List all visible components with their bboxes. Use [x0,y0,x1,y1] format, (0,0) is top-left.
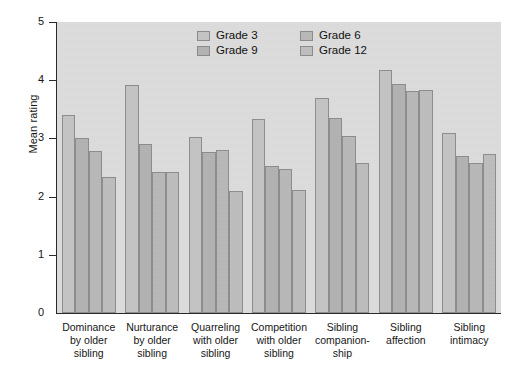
plot-area [57,22,501,313]
x-category-label-line: by older [120,334,183,347]
bar-group [57,22,120,313]
x-category-label: Siblingintimacy [438,321,501,347]
bar [152,172,166,313]
y-tick-mark [49,80,57,81]
bar [379,70,393,313]
bar-group [120,22,183,313]
bar [442,133,456,313]
x-category-label-line: Sibling [374,321,437,334]
bar [75,138,89,313]
bar [89,151,103,313]
x-category-label-line: affection [374,334,437,347]
bar-series-container [57,22,501,313]
x-category-label-line: Competition [247,321,310,334]
y-tick-label: 3 [26,132,44,143]
x-category-label-line: companion- [311,334,374,347]
x-category-label-line: Sibling [311,321,374,334]
bar [315,98,329,313]
bar [229,191,243,313]
legend-label: Grade 12 [319,45,367,57]
bar [189,137,203,313]
x-category-label-line: with older [247,334,310,347]
bar [62,115,76,313]
y-tick-label: 2 [26,191,44,202]
bar [469,163,483,313]
x-category-label-line: Sibling [438,321,501,334]
x-category-label-line: intimacy [438,334,501,347]
bar [419,90,433,313]
x-axis-category-labels: Dominanceby oldersiblingNurturanceby old… [57,321,501,376]
y-axis-tick-labels: 012345 [26,0,44,376]
bar [202,152,216,313]
y-tick-label: 4 [26,74,44,85]
y-tick-mark [49,197,57,198]
bar [279,169,293,313]
bar [265,166,279,313]
bar [456,156,470,313]
bar [406,91,420,313]
x-category-label: Competitionwith oldersibling [247,321,310,360]
legend-label: Grade 3 [216,30,258,42]
x-category-label: Nurturanceby oldersibling [120,321,183,360]
x-category-label-line: by older [57,334,120,347]
bar-group [184,22,247,313]
bar [216,150,230,313]
legend-swatch-icon [197,46,210,56]
bar-chart-figure: Mean rating 012345 Grade 3Grade 6Grade 9… [0,0,517,376]
bar [342,136,356,314]
x-category-label: Siblingaffection [374,321,437,347]
x-category-label-line: Dominance [57,321,120,334]
legend-swatch-icon [197,31,210,41]
bar [139,144,153,313]
y-tick-mark [49,255,57,256]
x-category-label-line: sibling [247,347,310,360]
bar [102,177,116,313]
bar [392,84,406,313]
bar [166,172,180,313]
legend-item: Grade 9 [197,43,300,58]
legend-item: Grade 12 [300,43,403,58]
bar-group [247,22,310,313]
bar [356,163,370,313]
x-category-label-line: with older [184,334,247,347]
x-category-label-line: ship [311,347,374,360]
y-tick-mark [49,22,57,23]
legend: Grade 3Grade 6Grade 9Grade 12 [197,28,402,58]
legend-label: Grade 9 [216,45,258,57]
x-category-label-line: sibling [184,347,247,360]
bar [483,154,497,313]
bar [329,118,343,313]
bar-group [438,22,501,313]
y-tick-label: 1 [26,249,44,260]
legend-label: Grade 6 [319,30,361,42]
bar [292,190,306,313]
x-category-label: Siblingcompanion-ship [311,321,374,360]
bar-group [374,22,437,313]
bar [252,119,266,313]
x-axis-line [56,313,501,314]
y-tick-label: 0 [26,307,44,318]
bar-group [311,22,374,313]
y-tick-label: 5 [26,16,44,27]
legend-item: Grade 6 [300,28,403,43]
x-category-label: Quarrelingwith oldersibling [184,321,247,360]
legend-swatch-icon [300,31,313,41]
x-category-label-line: sibling [57,347,120,360]
legend-swatch-icon [300,46,313,56]
y-tick-mark [49,138,57,139]
x-category-label-line: sibling [120,347,183,360]
legend-item: Grade 3 [197,28,300,43]
x-category-label-line: Quarreling [184,321,247,334]
x-category-label: Dominanceby oldersibling [57,321,120,360]
x-category-label-line: Nurturance [120,321,183,334]
bar [125,85,139,313]
